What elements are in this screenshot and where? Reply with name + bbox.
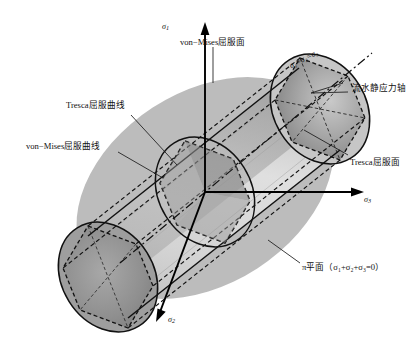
label-von-mises-curve: von−Mises屈服曲线	[26, 142, 100, 151]
label-tresca-curve: Tresca屈服曲线	[66, 101, 125, 110]
label-tresca-surface: Tresca屈服面	[350, 158, 400, 167]
label-hydrostatic-axis: 流水静应力轴	[352, 84, 406, 93]
label-von-mises-surface: von−Mises屈服面	[180, 38, 245, 47]
yield-surface-figure: σ1 σ3 σ2 von−Mises屈服面 流水静应力轴 σ₁=σ₂=σ₃ Tr…	[0, 0, 416, 353]
yield-surface-drawing	[0, 0, 416, 353]
label-pi-plane: π平面（σ₁+σ₂+σ₃=0）	[302, 263, 384, 272]
axis-label-sigma1: σ1	[162, 23, 169, 32]
axis-label-sigma3: σ3	[364, 196, 371, 205]
axis-label-sigma2: σ2	[168, 316, 175, 325]
